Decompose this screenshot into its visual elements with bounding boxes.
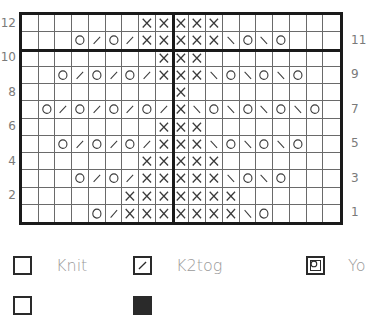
purl-icon — [139, 170, 155, 186]
yo-icon — [122, 136, 138, 152]
purl-icon — [189, 170, 205, 186]
chart-cell — [256, 67, 273, 84]
chart-cell — [89, 188, 106, 205]
chart-cell — [122, 153, 139, 170]
chart-cell — [273, 67, 290, 84]
yo-icon — [223, 136, 239, 152]
chart-cell — [173, 50, 190, 67]
ssk-icon — [206, 136, 222, 152]
chart-cell — [290, 101, 307, 118]
row-number-label: 9 — [351, 67, 359, 81]
purl-icon — [156, 15, 172, 31]
purl-icon — [173, 205, 189, 222]
chart-cell — [240, 170, 257, 187]
yo-icon — [256, 67, 272, 83]
row-number-label: 2 — [8, 188, 16, 202]
chart-cell — [206, 32, 223, 49]
purl-icon — [189, 15, 205, 31]
chart-cell — [72, 188, 89, 205]
ssk-icon — [240, 205, 256, 222]
chart-cell — [240, 15, 257, 32]
chart-cell — [256, 153, 273, 170]
chart-cell — [22, 170, 39, 187]
row-number-label: 1 — [351, 205, 359, 219]
chart-cell — [307, 119, 324, 136]
row-number-label: 7 — [351, 102, 359, 116]
chart-cell — [89, 67, 106, 84]
chart-cell — [256, 15, 273, 32]
row-number-label: 11 — [351, 33, 366, 47]
chart-cell — [156, 136, 173, 153]
yo-icon — [273, 101, 289, 117]
chart-cell — [122, 15, 139, 32]
chart-cell — [39, 67, 56, 84]
chart-cell — [189, 136, 206, 153]
chart-cell — [156, 67, 173, 84]
chart-cell — [89, 50, 106, 67]
chart-cell — [206, 188, 223, 205]
chart-cell — [122, 205, 139, 222]
chart-cell — [290, 84, 307, 101]
ssk-icon — [256, 170, 272, 186]
chart-cell — [307, 136, 324, 153]
chart-cell — [307, 67, 324, 84]
chart-cell — [139, 153, 156, 170]
chart-cell — [22, 15, 39, 32]
chart-cell — [106, 32, 123, 49]
chart-cell — [139, 170, 156, 187]
chart-cell — [256, 188, 273, 205]
legend-label-knit: Knit — [56, 256, 87, 275]
chart-cell — [122, 67, 139, 84]
ssk-icon — [290, 101, 306, 117]
chart-cell — [106, 188, 123, 205]
chart-cell — [55, 101, 72, 118]
chart-cell — [106, 119, 123, 136]
k2tog-icon — [139, 67, 155, 83]
center-divider — [172, 15, 175, 222]
chart-cell — [139, 50, 156, 67]
chart-cell — [156, 188, 173, 205]
purl-icon — [206, 205, 222, 222]
k2tog-icon — [89, 101, 105, 117]
chart-cell — [122, 136, 139, 153]
chart-cell — [323, 84, 340, 101]
chart-cell — [256, 170, 273, 187]
chart-cell — [290, 136, 307, 153]
chart-cell — [256, 84, 273, 101]
chart-cell — [273, 170, 290, 187]
chart-cell — [89, 153, 106, 170]
purl-icon — [156, 119, 172, 135]
chart-cell — [256, 101, 273, 118]
chart-cell — [173, 205, 190, 222]
legend-item-ssk — [13, 296, 32, 315]
chart-cell — [39, 101, 56, 118]
yo-symbol-icon — [306, 256, 325, 275]
chart-cell — [223, 188, 240, 205]
purl-icon — [139, 15, 155, 31]
k2tog-icon — [72, 136, 88, 152]
purl-icon — [156, 32, 172, 48]
yo-icon — [89, 136, 105, 152]
chart-cell — [55, 136, 72, 153]
chart-cell — [189, 15, 206, 32]
chart-cell — [189, 188, 206, 205]
chart-cell — [307, 50, 324, 67]
chart-cell — [256, 50, 273, 67]
purl-icon — [173, 15, 189, 31]
chart-cell — [173, 153, 190, 170]
chart-cell — [156, 50, 173, 67]
chart-cell — [89, 84, 106, 101]
chart-cell — [106, 84, 123, 101]
k2tog-icon — [106, 136, 122, 152]
chart-cell — [323, 119, 340, 136]
chart-cell — [323, 188, 340, 205]
chart-cell — [223, 67, 240, 84]
row-number-label: 10 — [1, 50, 16, 64]
legend-label-yo: Yo — [348, 256, 365, 275]
row-number-label: 4 — [8, 154, 16, 168]
chart-cell — [223, 50, 240, 67]
chart-cell — [273, 15, 290, 32]
chart-cell — [256, 205, 273, 222]
chart-cell — [89, 205, 106, 222]
chart-cell — [273, 101, 290, 118]
